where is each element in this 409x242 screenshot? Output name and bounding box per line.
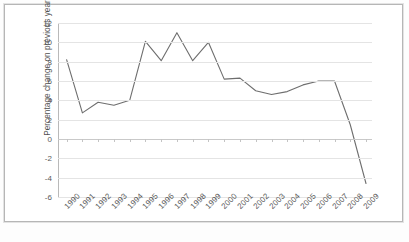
x-tick-mark (303, 139, 304, 142)
x-tick-mark (114, 139, 115, 142)
gridline (58, 158, 372, 159)
x-tick-mark (256, 139, 257, 142)
x-tick-mark (366, 139, 367, 142)
y-tick-label: 10 (43, 38, 52, 47)
data-series-line (58, 23, 372, 197)
x-tick-mark (335, 139, 336, 142)
gridline (58, 178, 372, 179)
x-tick-mark (272, 139, 273, 142)
x-tick-mark (287, 139, 288, 142)
gridline (58, 23, 372, 24)
x-tick-mark (350, 139, 351, 142)
y-tick-label: -6 (45, 193, 52, 202)
gridline (58, 62, 372, 63)
x-tick-mark (161, 139, 162, 142)
gridline (58, 81, 372, 82)
x-tick-mark (145, 139, 146, 142)
chart-page: Percentage change on previous year 12108… (0, 0, 409, 242)
x-axis-tick-labels: 1990199119921993199419951996199719981999… (58, 198, 372, 238)
y-tick-label: 6 (47, 77, 52, 86)
x-tick-mark (224, 139, 225, 142)
gridline (58, 100, 372, 101)
y-tick-label: 2 (47, 115, 52, 124)
y-tick-label: -4 (45, 173, 52, 182)
gridline (58, 120, 372, 121)
x-axis-ticks (58, 139, 372, 142)
x-tick-mark (130, 139, 131, 142)
x-tick-mark (67, 139, 68, 142)
x-tick-mark (82, 139, 83, 142)
y-tick-label: 4 (47, 96, 52, 105)
x-tick-mark (208, 139, 209, 142)
x-tick-mark (98, 139, 99, 142)
x-tick-mark (177, 139, 178, 142)
y-tick-label: 8 (47, 57, 52, 66)
x-tick-mark (193, 139, 194, 142)
y-tick-label: 12 (43, 19, 52, 28)
gridline (58, 42, 372, 43)
x-tick-mark (319, 139, 320, 142)
plot-area (58, 23, 372, 197)
x-tick-mark (240, 139, 241, 142)
y-tick-label: 0 (47, 135, 52, 144)
y-tick-label: -2 (45, 154, 52, 163)
y-axis-tick-labels: 121086420-2-4-6 (0, 23, 52, 197)
